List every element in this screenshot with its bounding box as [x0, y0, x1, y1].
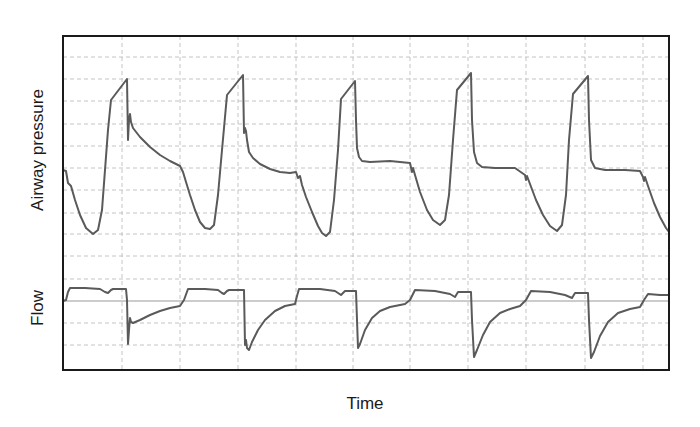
- y-axis-label-flow: Flow: [28, 289, 47, 326]
- x-axis-label-time: Time: [346, 394, 383, 413]
- ventilator-waveform-chart: Airway pressure Flow Time: [0, 0, 700, 427]
- grid-lines: [63, 36, 669, 370]
- plot-frame: [63, 36, 669, 370]
- airway-pressure-trace: [63, 73, 669, 236]
- y-axis-label-airway-pressure: Airway pressure: [28, 89, 47, 211]
